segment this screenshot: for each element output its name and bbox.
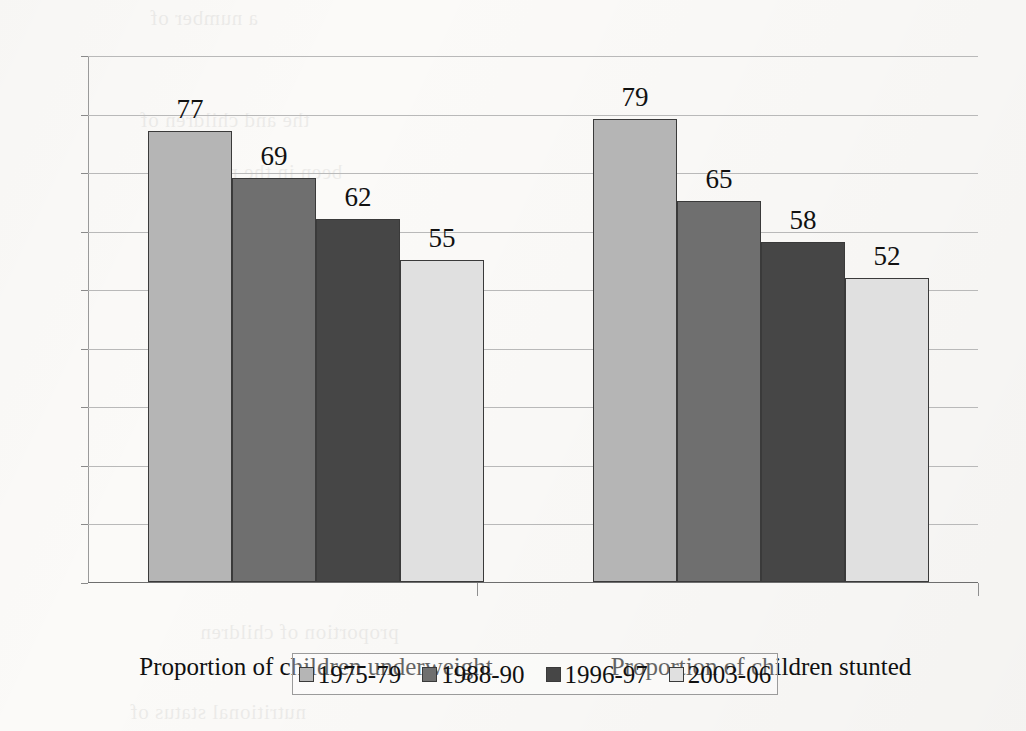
y-axis-tick [81,115,88,116]
bar-value-label: 55 [429,225,456,252]
legend-swatch-icon [669,667,684,682]
y-axis-tick [81,466,88,467]
legend-label: 2003-06 [688,662,771,687]
bar-value-label: 77 [177,96,204,123]
legend-label: 1996-97 [565,662,648,687]
y-axis-line [88,56,89,583]
gridline [88,115,978,116]
bar [232,178,316,582]
legend-item[interactable]: 1975-79 [299,662,401,687]
legend-label: 1988-90 [441,662,524,687]
y-axis-tick [81,349,88,350]
y-axis-tick [81,583,88,584]
bar [677,201,761,582]
legend-item[interactable]: 1996-97 [546,662,648,687]
bar-value-label: 62 [345,184,372,211]
y-axis-tick [81,524,88,525]
bar [593,119,677,582]
y-axis-tick [81,407,88,408]
legend-item[interactable]: 1988-90 [422,662,524,687]
bar [400,260,484,582]
x-axis-line [88,582,978,583]
bar-value-label: 79 [622,84,649,111]
bar-value-label: 65 [706,166,733,193]
legend-swatch-icon [422,667,437,682]
y-axis-tick [81,173,88,174]
bar-value-label: 69 [261,143,288,170]
x-axis-category-divider [978,583,979,596]
legend-swatch-icon [299,667,314,682]
bar [148,131,232,582]
y-axis-tick [81,56,88,57]
y-axis-tick [81,232,88,233]
y-axis-tick [81,290,88,291]
bar [845,278,929,582]
bar [316,219,400,582]
bar-value-label: 58 [790,207,817,234]
bar-chart: 0102030405060708090 7769625579655852 Pro… [88,56,978,583]
legend-label: 1975-79 [318,662,401,687]
bar [761,242,845,582]
x-axis-category-divider [477,583,478,596]
gridline [88,56,978,57]
bar-value-label: 52 [874,243,901,270]
legend-swatch-icon [546,667,561,682]
legend-item[interactable]: 2003-06 [669,662,771,687]
chart-legend: 1975-791988-901996-972003-06 [292,653,778,695]
